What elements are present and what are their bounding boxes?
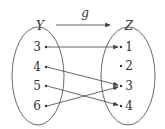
mapping-arrow-5-to-4 bbox=[47, 86, 118, 105]
domain-element: 3 bbox=[33, 40, 41, 54]
codomain-dot bbox=[120, 85, 122, 87]
codomain-dot bbox=[120, 105, 122, 107]
domain-dot bbox=[45, 66, 47, 68]
codomain-element: 1 bbox=[125, 40, 133, 54]
domain-element: 5 bbox=[33, 79, 41, 93]
codomain-dot bbox=[120, 65, 122, 67]
set-z-label: Z bbox=[124, 19, 134, 33]
mapping-arrow-4-to-3 bbox=[47, 67, 118, 85]
codomain-dot bbox=[120, 46, 122, 48]
codomain-element: 3 bbox=[125, 79, 133, 93]
mapping-arrow-6-to-3 bbox=[47, 87, 118, 106]
domain-element: 4 bbox=[33, 60, 41, 74]
domain-element: 6 bbox=[33, 99, 41, 113]
domain-dot bbox=[45, 46, 47, 48]
codomain-element: 2 bbox=[125, 59, 133, 73]
domain-dot bbox=[45, 105, 47, 107]
mapping-diagram: Y Z g 3 4 5 6 1 2 3 4 bbox=[0, 0, 165, 129]
function-label: g bbox=[81, 6, 89, 20]
set-y-label: Y bbox=[36, 19, 45, 33]
codomain-element: 4 bbox=[125, 99, 133, 113]
domain-dot bbox=[45, 85, 47, 87]
